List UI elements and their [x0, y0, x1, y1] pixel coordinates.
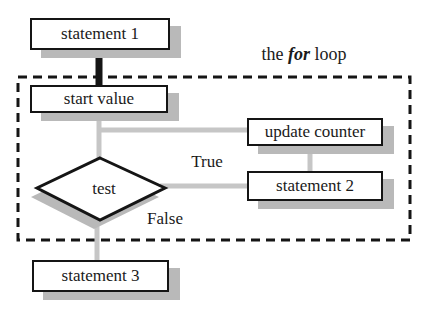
false-branch-label: False — [143, 209, 187, 229]
node-start-value: start value — [30, 85, 168, 113]
node-statement-2-label: statement 2 — [276, 176, 354, 196]
node-statement-3: statement 3 — [32, 260, 169, 292]
diagram-title-pre: the — [261, 44, 288, 64]
node-start-value-label: start value — [64, 89, 134, 109]
node-statement-1-label: statement 1 — [61, 24, 139, 44]
test-diamond-label: test — [76, 179, 132, 199]
true-branch-label: True — [186, 152, 228, 172]
diagram-title-post: loop — [310, 44, 347, 64]
node-statement-2: statement 2 — [247, 171, 383, 201]
diagram-title: the for loop — [252, 44, 356, 65]
node-statement-1: statement 1 — [30, 18, 170, 50]
for-loop-flowchart: statement 1 start value update counter s… — [0, 0, 428, 314]
node-statement-3-label: statement 3 — [62, 266, 140, 286]
diagram-title-keyword: for — [288, 44, 310, 64]
node-update-counter: update counter — [247, 118, 383, 146]
node-update-counter-label: update counter — [265, 122, 366, 142]
